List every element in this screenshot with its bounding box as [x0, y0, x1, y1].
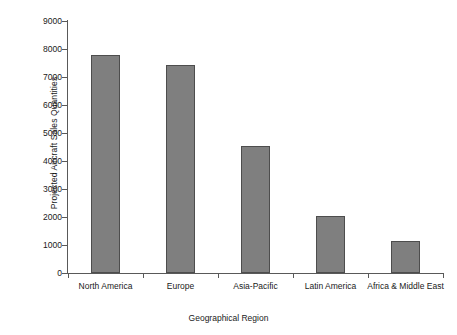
- y-axis-tick-mark: [62, 217, 68, 218]
- y-axis-tick-label: 3000: [6, 185, 62, 194]
- plot-area: [68, 21, 443, 273]
- y-axis-tick-mark: [62, 245, 68, 246]
- y-axis-tick-mark: [62, 133, 68, 134]
- y-axis-tick-mark: [62, 105, 68, 106]
- y-axis-tick-label: 8000: [6, 45, 62, 54]
- y-axis-tick-mark: [62, 49, 68, 50]
- x-axis-line: [68, 273, 444, 274]
- x-axis-tick-mark: [443, 274, 444, 278]
- bar: [166, 65, 195, 273]
- y-axis-tick-mark: [62, 77, 68, 78]
- x-axis-tick-mark: [293, 274, 294, 278]
- y-axis-tick-mark: [62, 21, 68, 22]
- bar: [91, 55, 120, 273]
- x-axis-title: Geographical Region: [0, 313, 457, 323]
- y-axis-tick-mark: [62, 161, 68, 162]
- x-axis-tick-mark: [143, 274, 144, 278]
- y-axis-tick-labels: 9000800070006000500040003000200010000: [0, 0, 62, 335]
- y-axis-tick-label: 2000: [6, 213, 62, 222]
- bar: [316, 216, 345, 273]
- y-axis-tick-label: 9000: [6, 17, 62, 26]
- y-axis-tick-label: 5000: [6, 129, 62, 138]
- bar: [241, 146, 270, 273]
- x-axis-tick-mark: [68, 274, 69, 278]
- y-axis-tick-label: 6000: [6, 101, 62, 110]
- y-axis-tick-label: 0: [6, 269, 62, 278]
- bar: [391, 241, 420, 273]
- y-axis-tick-label: 7000: [6, 73, 62, 82]
- y-axis-tick-mark: [62, 189, 68, 190]
- x-axis-tick-mark: [368, 274, 369, 278]
- x-axis-category-label: Africa & Middle East: [361, 281, 451, 292]
- y-axis-tick-label: 1000: [6, 241, 62, 250]
- y-axis-tick-label: 4000: [6, 157, 62, 166]
- bar-chart: Projected Aircraft Sales Quantities 9000…: [0, 0, 457, 335]
- x-axis-tick-mark: [218, 274, 219, 278]
